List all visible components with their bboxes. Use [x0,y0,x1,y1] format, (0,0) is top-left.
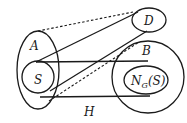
dashed-a-to-b-lower [49,42,139,101]
label-d: D [143,14,154,28]
label-s: S [34,73,42,87]
edge-s-to-b-top [36,61,148,62]
edge-s-to-d-upper [36,12,138,62]
label-a: A [29,39,39,53]
edge-s-to-b-bottom [40,96,150,97]
label-neighborhood: NG(S) [130,74,166,90]
label-h: H [83,105,95,119]
label-b: B [141,44,151,58]
bipartite-diagram: A S D B NG(S) H [0,0,187,123]
